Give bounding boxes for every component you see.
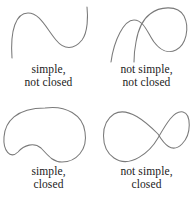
caption-line-2: closed <box>98 178 195 191</box>
panel-not-simple-closed: not simple, closed <box>98 102 195 203</box>
caption-simple-closed: simple, closed <box>0 165 97 191</box>
open-s-curve-icon <box>12 7 88 58</box>
caption-not-simple-closed: not simple, closed <box>98 165 195 191</box>
caption-line-1: simple, <box>0 165 97 178</box>
curve-area-simple-not-closed <box>0 0 97 64</box>
open-looped-curve-icon <box>111 8 187 62</box>
panel-not-simple-not-closed: not simple, not closed <box>98 0 195 101</box>
panel-simple-not-closed: simple, not closed <box>0 0 97 101</box>
curve-area-not-simple-closed <box>98 102 195 166</box>
caption-line-2: not closed <box>0 76 97 89</box>
caption-line-1: not simple, <box>98 165 195 178</box>
panel-simple-closed: simple, closed <box>0 102 97 203</box>
curve-classification-figure: simple, not closed not simple, not close… <box>0 0 195 203</box>
curve-area-simple-closed <box>0 102 97 166</box>
caption-line-2: closed <box>0 178 97 191</box>
figure-eight-curve-icon <box>104 112 190 162</box>
caption-simple-not-closed: simple, not closed <box>0 63 97 89</box>
curve-area-not-simple-not-closed <box>98 0 195 64</box>
caption-line-2: not closed <box>98 76 195 89</box>
caption-line-1: not simple, <box>98 63 195 76</box>
closed-bean-curve-icon <box>4 107 86 162</box>
caption-not-simple-not-closed: not simple, not closed <box>98 63 195 89</box>
caption-line-1: simple, <box>0 63 97 76</box>
